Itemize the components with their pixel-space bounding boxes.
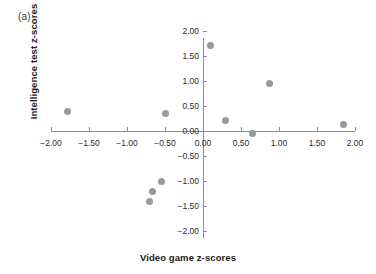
x-tick-label: −0.50 [145, 138, 185, 148]
data-point [222, 117, 229, 124]
data-point [162, 110, 169, 117]
x-axis-title: Video game z-scores [0, 252, 376, 263]
data-point [340, 121, 347, 128]
x-tick-label: 1.50 [297, 138, 337, 148]
data-point [149, 188, 156, 195]
y-tick-mark [203, 106, 207, 107]
y-tick-mark [203, 81, 207, 82]
figure-panel: (a) Intelligence test z-scores −2.00−1.5… [0, 0, 376, 274]
data-point [146, 198, 153, 205]
x-tick-label: −1.00 [107, 138, 147, 148]
y-tick-mark [203, 56, 207, 57]
data-point [207, 42, 214, 49]
x-tick-label: 0.50 [221, 138, 261, 148]
x-tick-mark [127, 127, 128, 131]
y-tick-mark [203, 206, 207, 207]
data-point [158, 178, 165, 185]
scatter-plot-area: −2.00−1.50−1.00−0.500.000.501.001.502.00… [0, 0, 376, 274]
x-tick-mark [51, 127, 52, 131]
y-tick-label: 0.50 [163, 101, 199, 111]
y-tick-mark [203, 156, 207, 157]
data-point [64, 108, 71, 115]
x-tick-label: 0.00 [183, 138, 223, 148]
data-point [266, 80, 273, 87]
x-tick-mark [89, 127, 90, 131]
y-tick-label: 1.00 [163, 76, 199, 86]
x-tick-label: −1.50 [69, 138, 109, 148]
y-tick-label: −2.00 [163, 226, 199, 236]
y-tick-label: −1.50 [163, 201, 199, 211]
y-tick-mark [203, 231, 207, 232]
y-tick-label: 2.00 [163, 26, 199, 36]
data-point [249, 130, 256, 137]
y-tick-label: 1.50 [163, 51, 199, 61]
y-tick-mark [203, 131, 207, 132]
y-tick-mark [203, 31, 207, 32]
x-tick-label: −2.00 [31, 138, 71, 148]
x-tick-mark [355, 127, 356, 131]
x-tick-mark [241, 127, 242, 131]
y-tick-mark [203, 181, 207, 182]
x-tick-mark [317, 127, 318, 131]
y-tick-label: −1.00 [163, 176, 199, 186]
y-tick-label: −0.50 [163, 151, 199, 161]
y-tick-label: 0.00 [163, 126, 199, 136]
x-tick-label: 2.00 [335, 138, 375, 148]
x-tick-label: 1.00 [259, 138, 299, 148]
x-tick-mark [279, 127, 280, 131]
